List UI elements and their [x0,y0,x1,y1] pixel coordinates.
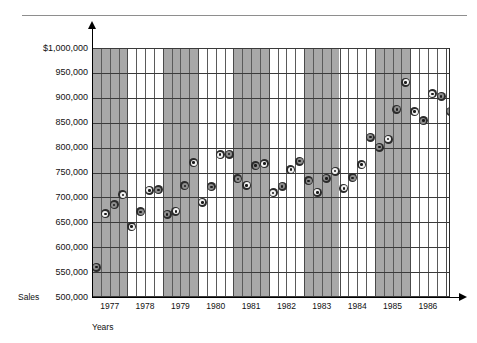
data-point-center [403,79,409,85]
data-point-center [429,91,435,97]
x-tick-label-1982: 1982 [277,302,296,311]
data-point-center [182,183,188,189]
data-point-center [208,184,214,190]
data-point-center [155,187,161,193]
y-tick-label: 700,000 [10,193,88,202]
data-point-center [244,182,250,188]
horizontal-gridline [92,173,450,174]
page-top-rule [22,15,467,16]
data-point [110,200,119,209]
data-point-center [235,176,241,182]
data-point-center [288,167,294,173]
y-tick-label: $1,000,000 [10,44,88,53]
data-point [225,150,234,159]
horizontal-gridline [92,272,450,273]
data-point [357,160,366,169]
data-point-center [341,185,347,191]
data-point-center [306,178,312,184]
data-point [295,157,304,166]
data-point-center [350,175,356,181]
data-point [145,186,154,195]
x-axis-arrow-icon [459,293,467,301]
data-point-center [226,151,232,157]
data-point-center [111,202,117,208]
data-point-center [217,152,223,158]
data-point-center [102,211,108,217]
x-axis-title: Years [92,322,113,332]
horizontal-gridline [92,98,450,99]
y-tick-label: 850,000 [10,118,88,127]
y-tick-label: 650,000 [10,218,88,227]
x-tick-label-1986: 1986 [418,302,437,311]
data-point [136,207,145,216]
data-point [437,92,446,101]
data-point [331,167,340,176]
data-point-center [146,187,152,193]
data-point-center [420,118,426,124]
data-point [278,182,287,191]
data-point [348,173,357,182]
data-point-center [164,211,170,217]
horizontal-gridline [92,73,450,74]
data-point [154,185,163,194]
data-point-center [129,224,135,230]
data-point [163,210,172,219]
data-point-center [270,190,276,196]
data-point-center [199,199,205,205]
data-point-center [359,162,365,168]
data-point [313,188,322,197]
data-point-center [253,163,259,169]
y-tick-label: 800,000 [10,143,88,152]
data-point [127,222,136,231]
data-point-center [367,134,373,140]
data-point [260,159,269,168]
data-point-center [332,168,338,174]
data-point [410,107,419,116]
y-tick-label: 750,000 [10,168,88,177]
data-point [375,143,384,152]
x-tick-label-1977: 1977 [100,302,119,311]
data-point-center [394,106,400,112]
x-tick-label-1985: 1985 [383,302,402,311]
data-point [216,150,225,159]
data-point [198,198,207,207]
x-tick-label-1979: 1979 [171,302,190,311]
data-point-center [314,189,320,195]
data-point-center [261,161,267,167]
x-tick-label-1980: 1980 [206,302,225,311]
x-tick-label-1984: 1984 [348,302,367,311]
chart-page: $1,000,000950,000900,000850,000800,00075… [0,0,477,343]
y-axis-line [92,27,93,298]
data-point-center [191,160,197,166]
data-point [207,182,216,191]
plot-area [92,48,450,297]
y-tick-label: 950,000 [10,68,88,77]
data-point-center [412,109,418,115]
data-point-center [138,209,144,215]
y-tick-label: 600,000 [10,243,88,252]
data-point [384,135,393,144]
x-tick-label-1981: 1981 [242,302,261,311]
y-tick-label: 900,000 [10,93,88,102]
data-point [92,263,101,272]
data-point [251,161,260,170]
x-tick-label-1983: 1983 [312,302,331,311]
horizontal-gridline [92,222,450,223]
y-axis-title: Sales [18,292,39,302]
y-axis-arrow-icon [88,21,96,29]
data-point-center [173,208,179,214]
data-point-center [93,264,99,270]
data-point [366,133,375,142]
data-point-center [385,136,391,142]
x-axis-line [92,297,460,298]
x-tick-label-1978: 1978 [136,302,155,311]
y-tick-label: 550,000 [10,268,88,277]
data-point-center [120,192,126,198]
horizontal-gridline [92,48,450,49]
horizontal-gridline [92,123,450,124]
horizontal-gridline [92,247,450,248]
plot-right-border [449,48,450,297]
horizontal-gridline [92,197,450,198]
data-point-center [323,175,329,181]
data-point [428,89,437,98]
